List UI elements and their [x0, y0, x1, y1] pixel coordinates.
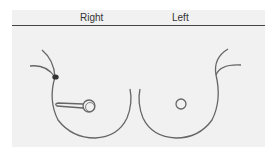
left-axilla-curve-lower: [216, 65, 241, 75]
left-breast: [139, 49, 241, 138]
right-breast: [30, 50, 131, 138]
right-axilla-curve-upper: [42, 50, 55, 77]
right-breast-outline: [52, 77, 131, 138]
left-axilla-curve-upper: [216, 49, 229, 75]
left-breast-outline: [139, 75, 218, 138]
right-nipple-inner: [86, 103, 95, 112]
right-axilla-curve-lower: [30, 66, 55, 77]
axillary-marker-dot: [52, 74, 58, 79]
breast-diagram: [0, 0, 276, 156]
right-lesion-wedge: [56, 103, 83, 108]
left-nipple: [176, 99, 186, 109]
